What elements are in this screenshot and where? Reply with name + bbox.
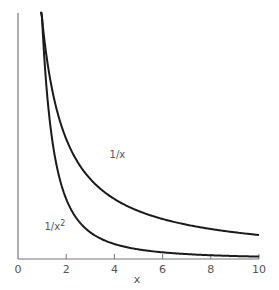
axes: 0246810 x: [15, 13, 267, 286]
curve-one-over-x-squared: [41, 12, 259, 257]
x-tick-label: 10: [252, 263, 266, 276]
label-one-over-x: 1/x: [110, 149, 126, 160]
x-axis-title: x: [134, 273, 141, 286]
label-one-over-x-squared: 1/x2: [45, 219, 66, 232]
label-superscript: 2: [60, 219, 65, 228]
x-tick-label: 6: [159, 263, 166, 276]
x-tick-label: 8: [207, 263, 214, 276]
label-one-over-x-squared-text: 1/x: [45, 221, 61, 232]
curve-one-over-x: [40, 12, 259, 235]
x-tick-label: 0: [15, 263, 22, 276]
curves: [40, 12, 259, 257]
chart-container: 0246810 x 1/x 1/x2: [0, 0, 279, 290]
reciprocal-functions-chart: 0246810 x 1/x 1/x2: [0, 0, 279, 290]
x-tick-label: 4: [111, 263, 118, 276]
x-tick-label: 2: [63, 263, 70, 276]
label-one-over-x-text: 1/x: [110, 149, 126, 160]
